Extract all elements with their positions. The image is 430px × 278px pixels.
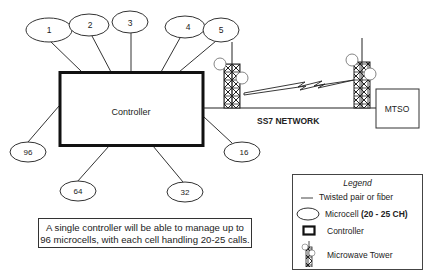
svg-text:5: 5 bbox=[219, 25, 224, 35]
svg-text:3: 3 bbox=[128, 18, 133, 28]
note-line-2: 96 microcells, with each cell handling 2… bbox=[39, 234, 251, 246]
microcell-3: 3 bbox=[112, 11, 148, 33]
microwave-link-bolt bbox=[244, 80, 354, 95]
microcell-16: 16 bbox=[224, 142, 260, 162]
svg-text:32: 32 bbox=[181, 188, 190, 197]
mtso-box: MTSO bbox=[376, 89, 419, 128]
link-cell-5 bbox=[179, 41, 216, 72]
microcell-64: 64 bbox=[60, 181, 96, 201]
link-cell-32 bbox=[153, 146, 183, 182]
microwave-tower-icon bbox=[300, 241, 318, 267]
microcell-32: 32 bbox=[167, 182, 203, 202]
svg-text:MTSO: MTSO bbox=[385, 104, 410, 114]
legend-item-microcell: Microcell (20 - 25 CH) bbox=[293, 207, 422, 221]
controller-box-icon bbox=[302, 225, 316, 237]
link-cell-4 bbox=[161, 38, 180, 72]
legend-title: Legend bbox=[293, 178, 422, 188]
microcell-96: 96 bbox=[10, 142, 46, 162]
controller-box: Controller bbox=[60, 73, 203, 146]
microcell-2: 2 bbox=[69, 14, 109, 36]
link-cell-16 bbox=[204, 117, 232, 143]
microcell-1: 1 bbox=[26, 18, 72, 42]
link-cell-1 bbox=[50, 41, 82, 72]
svg-text:2: 2 bbox=[88, 20, 93, 30]
microcell-5: 5 bbox=[203, 18, 239, 42]
svg-text:64: 64 bbox=[74, 187, 83, 196]
svg-text:Controller: Controller bbox=[111, 107, 150, 117]
legend-item-controller: Controller bbox=[293, 225, 422, 237]
svg-text:16: 16 bbox=[240, 148, 249, 157]
svg-text:1: 1 bbox=[47, 25, 52, 35]
note-line-1: A single controller will be able to mana… bbox=[39, 222, 251, 234]
svg-text:96: 96 bbox=[24, 148, 33, 157]
microwave-tower-left bbox=[214, 42, 248, 108]
microcell-4: 4 bbox=[165, 16, 205, 38]
legend-item-twisted-pair: Twisted pair or fiber bbox=[293, 192, 422, 204]
line-icon bbox=[301, 196, 313, 200]
ss7-network-label: SS7 NETWORK bbox=[257, 116, 320, 126]
note-box: A single controller will be able to mana… bbox=[38, 218, 252, 248]
link-cell-2 bbox=[92, 36, 111, 72]
svg-text:4: 4 bbox=[186, 22, 191, 32]
link-cell-64 bbox=[77, 146, 109, 182]
legend: Legend Twisted pair or fiber Microcell (… bbox=[292, 174, 423, 270]
microwave-tower-right bbox=[346, 38, 376, 108]
ellipse-icon bbox=[296, 207, 320, 221]
link-cell-96 bbox=[28, 106, 59, 142]
legend-item-microwave-tower: Microwave Tower bbox=[293, 241, 422, 267]
